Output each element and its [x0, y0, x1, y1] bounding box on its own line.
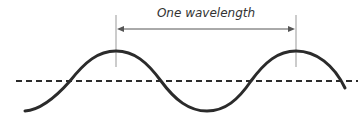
wavelength-diagram: One wavelength: [0, 0, 364, 121]
wavelength-label: One wavelength: [116, 6, 296, 20]
arrow-head-right-icon: [288, 26, 295, 32]
arrow-head-left-icon: [117, 26, 124, 32]
